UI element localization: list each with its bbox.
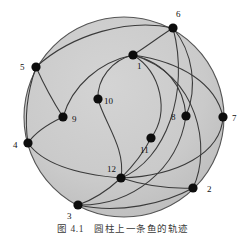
node-label-2: 2 (207, 184, 212, 194)
figure-caption: 图 4.1 圆柱上一条鱼的轨迹 (0, 224, 246, 233)
graph-node-4[interactable] (23, 138, 32, 147)
graph-node-8[interactable] (181, 111, 190, 120)
graph-node-10[interactable] (93, 94, 102, 103)
node-label-8: 8 (171, 112, 176, 122)
circular-graph-svg: 123456789101112 (0, 0, 246, 233)
graph-node-6[interactable] (168, 23, 177, 32)
node-label-1: 1 (137, 61, 142, 71)
node-label-7: 7 (232, 113, 237, 123)
node-label-4: 4 (13, 140, 18, 150)
graph-node-3[interactable] (73, 200, 82, 209)
node-label-6: 6 (176, 9, 181, 19)
graph-node-1[interactable] (128, 50, 137, 59)
figure-container: 123456789101112 图 4.1 圆柱上一条鱼的轨迹 (0, 0, 246, 233)
graph-node-5[interactable] (31, 62, 40, 71)
graph-node-7[interactable] (218, 112, 227, 121)
node-label-12: 12 (107, 164, 116, 174)
graph-node-2[interactable] (188, 183, 197, 192)
node-label-5: 5 (20, 62, 25, 72)
node-label-9: 9 (72, 114, 77, 124)
node-label-10: 10 (104, 96, 114, 106)
node-label-3: 3 (67, 211, 72, 221)
graph-node-9[interactable] (58, 112, 67, 121)
node-label-11: 11 (140, 145, 149, 155)
graph-node-11[interactable] (146, 133, 155, 142)
graph-node-12[interactable] (116, 173, 125, 182)
